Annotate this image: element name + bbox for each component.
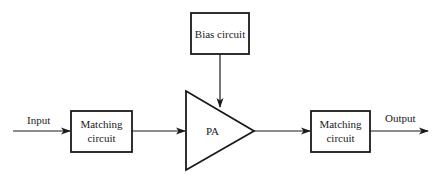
input-matching-label-line2: circuit (87, 132, 115, 144)
bias-circuit: Bias circuit (191, 13, 249, 54)
output-matching-label-line2: circuit (326, 132, 354, 144)
input-matching-label-line1: Matching (80, 118, 123, 130)
output-signal: Output (370, 112, 428, 131)
input-matching-circuit: Matching circuit (71, 111, 132, 152)
pa-block-diagram: Input Matching circuit Bias circuit PA M… (0, 0, 435, 185)
output-label: Output (385, 112, 416, 124)
bias-label: Bias circuit (195, 28, 245, 40)
input-signal: Input (13, 114, 70, 131)
pa-label: PA (206, 125, 219, 137)
input-label: Input (27, 114, 50, 126)
output-matching-circuit: Matching circuit (311, 111, 370, 152)
output-matching-label-line1: Matching (319, 118, 362, 130)
